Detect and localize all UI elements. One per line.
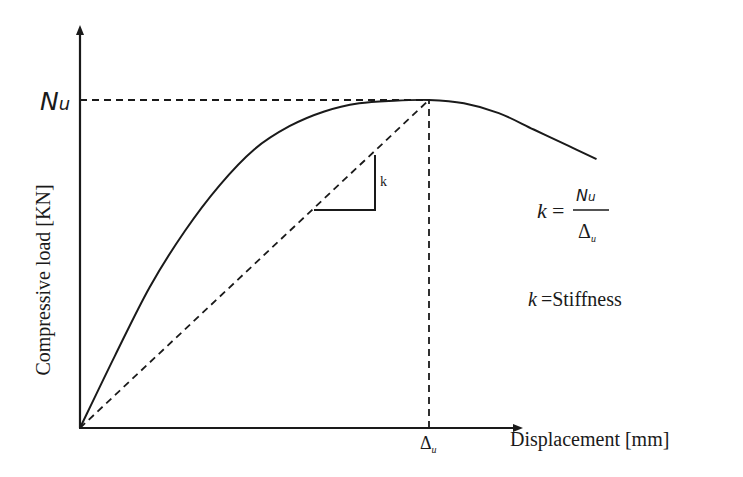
formula-denominator-main: Δ (578, 220, 591, 242)
x-axis-label: Displacement [mm] (510, 428, 669, 451)
stiffness-text: =Stiffness (541, 288, 622, 310)
delta-u-label-main: Δ (420, 433, 432, 453)
formula-lhs: k (537, 198, 548, 223)
formula-denominator: Δu (578, 220, 596, 244)
stiffness-formula: k = Nu Δu (537, 186, 609, 244)
delta-u-label-sub: u (432, 444, 437, 455)
delta-u-label: Δu (420, 433, 437, 455)
nu-label-sub: u (59, 93, 70, 114)
nu-label-main: N (40, 87, 59, 116)
formula-equals: = (552, 198, 564, 223)
formula-denominator-sub: u (591, 233, 596, 244)
formula-numerator-main: N (576, 186, 588, 205)
load-displacement-chart: k Nu Δu Displacement [mm] Compressive lo… (0, 0, 743, 477)
stiffness-symbol: k (528, 288, 538, 310)
stiffness-definition: k=Stiffness (528, 288, 622, 310)
formula-numerator: Nu (576, 186, 596, 205)
nu-label: Nu (40, 87, 70, 116)
load-displacement-curve (80, 100, 597, 428)
slope-label: k (380, 174, 387, 189)
slope-triangle (314, 155, 375, 210)
y-axis-label: Compressive load [KN] (32, 184, 55, 375)
formula-numerator-sub: u (588, 190, 596, 204)
